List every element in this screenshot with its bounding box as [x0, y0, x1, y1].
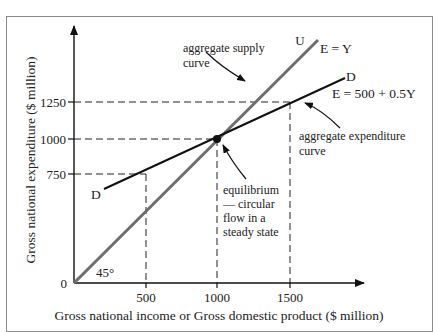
supply-letter-u: U	[295, 33, 305, 48]
y-axis-title: Gross national expenditure ($ million)	[23, 57, 38, 264]
expend-letter-start: D	[91, 187, 101, 202]
equilibrium-note-arrow	[223, 145, 246, 179]
supply-note-arrow	[206, 52, 245, 81]
x-tick-1000: 1000	[204, 290, 230, 305]
supply-note-line1: aggregate supply	[183, 41, 265, 55]
expend-equation: E = 500 + 0.5Y	[332, 86, 416, 101]
supply-equation: E = Y	[320, 41, 352, 56]
eq-note-line3: flow in a	[223, 211, 266, 225]
x-axis-title: Gross national income or Gross domestic …	[54, 308, 383, 323]
expend-note-arrow	[305, 103, 340, 128]
expend-letter-end: D	[346, 69, 356, 84]
expend-note-line2: curve	[299, 144, 326, 158]
y-tick-1000: 1000	[40, 132, 66, 147]
equilibrium-point	[213, 135, 221, 143]
y-tick-1250: 1250	[40, 95, 66, 110]
expend-note-line1: aggregate expenditure	[299, 129, 405, 143]
supply-note-line2: curve	[183, 56, 210, 70]
supply-line	[74, 40, 318, 283]
eq-note-line4: steady state	[223, 225, 279, 239]
x-tick-1500: 1500	[277, 290, 303, 305]
angle-label: 45°	[96, 265, 114, 280]
eq-note-line2: — circular	[222, 197, 275, 211]
eq-note-line1: equilibrium	[223, 183, 280, 197]
y-tick-750: 750	[47, 167, 67, 182]
x-tick-500: 500	[136, 290, 156, 305]
origin-label: 0	[61, 276, 68, 291]
